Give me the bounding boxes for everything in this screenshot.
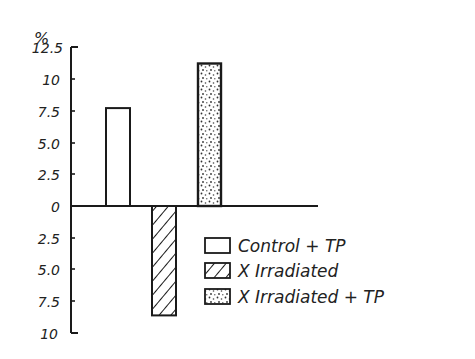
y-tick-label: 10 xyxy=(40,326,58,342)
legend-item-x-irradiated-tp: X Irradiated + TP xyxy=(205,287,385,307)
y-tick-label: 2.5 xyxy=(38,167,60,183)
y-tick-label: 5.0 xyxy=(38,136,60,152)
y-tick-label: 2.5 xyxy=(38,231,60,247)
bar-x-irradiated xyxy=(152,206,176,315)
legend-label: X Irradiated xyxy=(237,261,339,281)
legend-swatch-hatched xyxy=(205,263,230,278)
y-tick-label: 5.0 xyxy=(38,262,60,278)
legend-swatch-stippled xyxy=(205,289,230,304)
y-tick-label: 0 xyxy=(51,199,60,215)
y-tick-label: 7.5 xyxy=(38,104,60,120)
legend: Control + TP X Irradiated X Irradiated +… xyxy=(205,236,385,307)
bar-x-irradiated-tp xyxy=(198,64,221,207)
y-tick-label: 10 xyxy=(42,72,60,88)
legend-label: Control + TP xyxy=(238,236,346,256)
bar-chart: % 12.5 10 7.5 5.0 2.5 0 2.5 5.0 7.5 10 C… xyxy=(0,0,475,359)
legend-swatch-open xyxy=(205,238,230,253)
legend-label: X Irradiated + TP xyxy=(237,287,385,307)
y-tick-labels: 12.5 10 7.5 5.0 2.5 0 2.5 5.0 7.5 10 xyxy=(32,40,63,342)
legend-item-x-irradiated: X Irradiated xyxy=(205,261,339,281)
bar-control-tp xyxy=(106,108,130,206)
y-tick-label: 12.5 xyxy=(32,40,63,56)
legend-item-control-tp: Control + TP xyxy=(205,236,346,256)
y-tick-label: 7.5 xyxy=(38,294,60,310)
